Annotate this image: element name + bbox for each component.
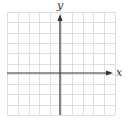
- y-axis-label: y: [57, 0, 63, 11]
- x-axis-label: x: [116, 67, 122, 78]
- grid-lines: [7, 12, 116, 116]
- coordinate-plane: y x: [0, 0, 128, 124]
- grid-svg: [0, 0, 128, 124]
